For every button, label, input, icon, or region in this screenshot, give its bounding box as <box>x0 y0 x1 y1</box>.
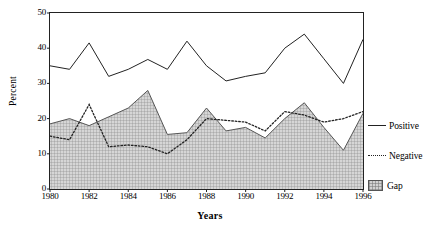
x-tick-label: 1992 <box>265 192 305 201</box>
legend-item-negative: Negative <box>368 150 427 161</box>
legend-label-negative: Negative <box>389 151 423 161</box>
legend-item-gap: Gap <box>368 180 427 191</box>
legend-item-positive: Positive <box>368 120 427 131</box>
y-tick-label: 20 <box>18 114 46 123</box>
y-tick-label: 30 <box>18 78 46 87</box>
solid-line-icon <box>368 121 386 131</box>
chart-legend: Positive Negative Gap <box>368 120 427 191</box>
x-tick-label: 1986 <box>147 192 187 201</box>
series-positive-line <box>50 34 363 83</box>
x-tick-label: 1982 <box>69 192 109 201</box>
y-axis-title: Percent <box>8 56 18 126</box>
x-tick-label: 1980 <box>30 192 70 201</box>
x-tick-label: 1996 <box>343 192 383 201</box>
x-axis-title: Years <box>160 210 260 221</box>
x-tick-label: 1988 <box>187 192 227 201</box>
chart-figure: 01020304050 1980198219841986198819901992… <box>0 0 427 236</box>
x-tick-label: 1990 <box>226 192 266 201</box>
y-tick-label: 50 <box>18 8 46 17</box>
legend-label-positive: Positive <box>389 121 419 131</box>
y-tick-label: 10 <box>18 149 46 158</box>
y-axis-ticks <box>47 13 50 189</box>
x-tick-label: 1984 <box>108 192 148 201</box>
x-tick-label: 1994 <box>304 192 344 201</box>
series-gap-area <box>50 90 363 189</box>
y-tick-label: 40 <box>18 43 46 52</box>
dotted-line-icon <box>368 151 386 161</box>
legend-label-gap: Gap <box>387 181 403 191</box>
area-swatch-icon <box>368 180 383 191</box>
